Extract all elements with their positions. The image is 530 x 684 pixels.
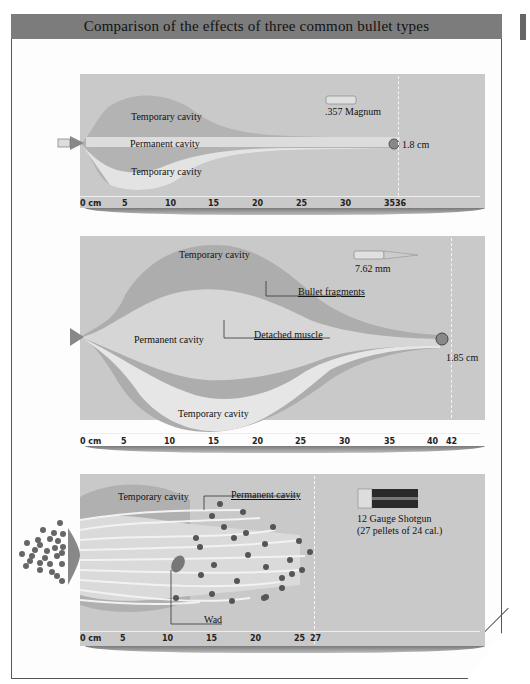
- shotgun-cavity-shape: [0, 0, 530, 684]
- shotgun-bullet-sublabel: (27 pellets of 24 cal.): [357, 525, 442, 536]
- shotgun-tick: 20: [250, 634, 261, 643]
- shotgun-permanent-label: Permanent cavity: [231, 489, 301, 500]
- shotgun-temp-label: Temporary cavity: [118, 491, 189, 502]
- shotgun-tick: 25: [294, 634, 305, 643]
- shotgun-wad-label: Wad: [204, 614, 222, 625]
- shotgun-axis-unit: 0 cm: [80, 634, 101, 643]
- shotgun-tick: 15: [206, 634, 217, 643]
- shotgun-max-line: [314, 476, 315, 644]
- shotgun-tick: 27: [310, 634, 321, 643]
- shotgun-axis-line: [80, 631, 480, 632]
- shotgun-tick: 10: [162, 634, 173, 643]
- shotgun-bullet-label: 12 Gauge Shotgun: [357, 513, 431, 524]
- shotgun-tick: 5: [120, 634, 126, 643]
